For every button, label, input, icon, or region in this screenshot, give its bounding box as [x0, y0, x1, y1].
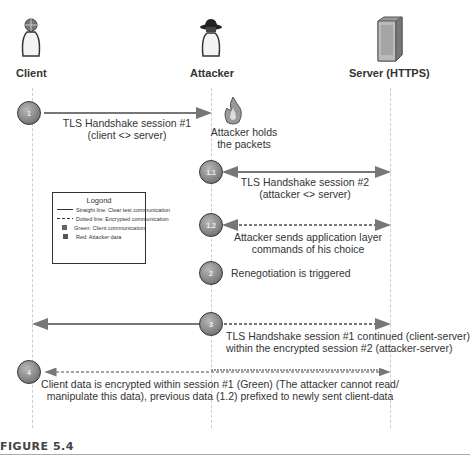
- caption-divider: [0, 454, 470, 455]
- green-square-icon: [57, 225, 71, 230]
- router-icon-client-4: 4: [17, 360, 41, 384]
- message-m2: TLS Handshake session #2 (attacker <> se…: [235, 176, 375, 200]
- dotted-line-icon: [57, 217, 73, 220]
- router-icon-client-1: 1: [17, 101, 41, 125]
- router-icon-attacker-3: 3: [199, 312, 223, 336]
- message-m3: Attacker sends application layer command…: [228, 231, 388, 255]
- message-m1b: Attacker holds the packets: [208, 126, 280, 150]
- figure-caption: FIGURE 5.4: [0, 440, 74, 453]
- message-m6: Client data is encrypted within session …: [40, 378, 400, 402]
- router-icon-attacker-1-1: 1.1: [199, 160, 223, 184]
- legend-item-dotted: Dotted line: Encrypted communication: [57, 214, 145, 223]
- router-icon-attacker-2: 2: [199, 261, 223, 285]
- message-m4: Renegotiation is triggered: [231, 267, 351, 279]
- legend-item-solid: Straight line: Clear test communication: [57, 205, 145, 214]
- message-m5: TLS Handshake session #1 continued (clie…: [226, 330, 470, 354]
- legend-item-green: Green: Client communication: [57, 223, 145, 232]
- solid-line-icon: [57, 208, 73, 211]
- legend-title: Logond: [53, 196, 145, 205]
- legend-item-red: Red: Attacker data: [57, 232, 145, 241]
- fire-icon: [223, 96, 243, 126]
- message-m1: TLS Handshake session #1 (client <> serv…: [62, 117, 192, 141]
- red-square-icon: [57, 234, 73, 239]
- legend-box: Logond Straight line: Clear test communi…: [52, 192, 146, 264]
- router-icon-attacker-1-2: 1.2: [199, 213, 223, 237]
